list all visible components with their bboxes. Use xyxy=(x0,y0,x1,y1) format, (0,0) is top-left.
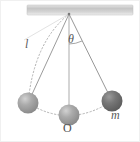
pivot-point xyxy=(68,13,71,16)
origin-label: O xyxy=(63,122,72,134)
mass-label: m xyxy=(111,109,120,121)
ceiling-support-bar xyxy=(27,5,133,15)
left-bob xyxy=(18,93,39,114)
angle-label-theta: θ xyxy=(68,33,74,45)
pendulum-figure: l θ O m xyxy=(0,0,140,142)
length-label: l xyxy=(25,38,28,50)
